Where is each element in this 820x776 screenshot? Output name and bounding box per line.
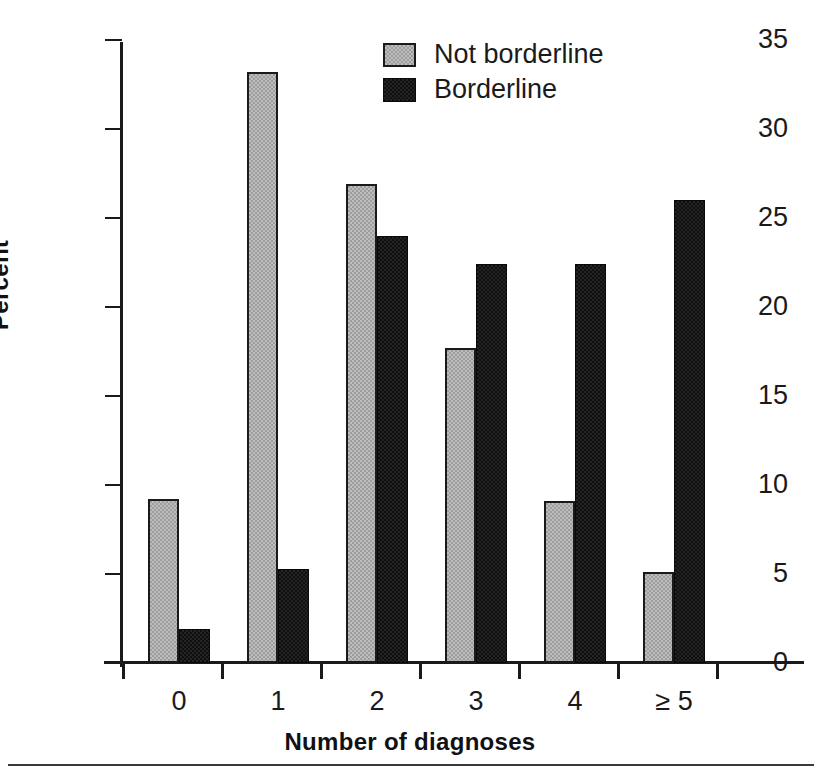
y-axis-tick-label: 5 [718, 560, 788, 587]
y-axis-tick [105, 217, 122, 219]
x-axis-tick-label: ≥ 5 [629, 686, 719, 716]
footer-divider [8, 764, 814, 766]
bar-borderline-1 [278, 569, 309, 663]
legend-item-label: Not borderline [434, 39, 604, 70]
x-axis-tick [419, 663, 422, 679]
bar-borderline-5 [674, 200, 705, 663]
x-axis-tick-label: 0 [134, 686, 224, 716]
x-axis-tick [320, 663, 323, 679]
x-axis-tick [716, 663, 719, 679]
figure-bar-chart: Percent Number of diagnoses 051015202530… [0, 0, 820, 776]
x-axis-tick [122, 663, 125, 679]
x-axis-title: Number of diagnoses [0, 728, 820, 756]
bar-borderline-0 [179, 629, 210, 663]
bar-not-borderline-3 [445, 348, 476, 663]
y-axis-title: Percent [0, 240, 14, 330]
bar-not-borderline-1 [247, 72, 278, 663]
bar-not-borderline-0 [148, 499, 179, 663]
legend-swatch-icon [383, 43, 416, 67]
x-axis-tick-label: 3 [431, 686, 521, 716]
legend-item-label: Borderline [434, 74, 557, 105]
y-axis-tick [105, 39, 122, 41]
y-axis-tick [105, 306, 122, 308]
x-axis-tick [518, 663, 521, 679]
y-axis-tick-label: 10 [718, 471, 788, 498]
y-axis-tick-label: 25 [718, 204, 788, 231]
x-axis-tick-label: 1 [233, 686, 323, 716]
bar-borderline-4 [575, 264, 606, 663]
y-axis-tick [105, 395, 122, 397]
y-axis-tick-label: 35 [718, 26, 788, 53]
x-axis-tick-label: 4 [530, 686, 620, 716]
bar-borderline-2 [377, 236, 408, 663]
bar-borderline-3 [476, 264, 507, 663]
plot-area: 05101520253035 [122, 40, 812, 663]
bar-not-borderline-2 [346, 184, 377, 663]
y-axis-tick [105, 573, 122, 575]
y-axis-tick-label: 30 [718, 115, 788, 142]
x-axis-tick [617, 663, 620, 679]
bar-not-borderline-4 [544, 501, 575, 663]
y-axis-tick [105, 662, 122, 664]
legend-swatch-icon [383, 78, 416, 102]
y-axis-tick-label: 15 [718, 382, 788, 409]
x-axis-tick-label: 2 [332, 686, 422, 716]
y-axis-tick [105, 484, 122, 486]
x-axis-tick [221, 663, 224, 679]
y-axis-tick [105, 128, 122, 130]
y-axis-tick-label: 0 [718, 649, 788, 676]
y-axis-tick-label: 20 [718, 293, 788, 320]
bar-not-borderline-5 [643, 572, 674, 663]
